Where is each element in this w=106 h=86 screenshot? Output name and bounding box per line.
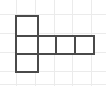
cell-middle-fourth <box>75 36 94 54</box>
polyomino-cells <box>16 16 94 72</box>
cell-middle-left <box>16 36 38 54</box>
cell-top-left <box>16 16 38 36</box>
cell-middle-second <box>38 36 56 54</box>
cell-bottom-left <box>16 54 38 72</box>
cell-middle-third <box>56 36 75 54</box>
polyomino-figure <box>0 0 106 86</box>
polyomino-shape <box>0 0 106 86</box>
